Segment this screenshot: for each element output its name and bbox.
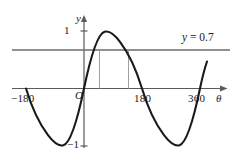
x-axis — [12, 85, 228, 91]
x-tick-label-360: 360 — [188, 93, 205, 104]
equation-variable: y — [182, 31, 187, 43]
x-tick-label-180: 180 — [134, 93, 151, 104]
origin-label: O — [75, 90, 83, 101]
sine-graph-figure: y 1 −1 O −180 180 360 θ y = 0.7 — [0, 0, 234, 164]
y-axis-arrowhead — [81, 15, 87, 22]
x-tick-label-minus-180: −180 — [11, 93, 35, 104]
equation-value: = 0.7 — [190, 31, 214, 43]
x-axis-label-theta: θ — [216, 93, 221, 104]
plot-canvas — [0, 0, 234, 164]
equation-label-y-equals-0-7: y = 0.7 — [182, 32, 214, 44]
x-axis-arrowhead — [220, 85, 228, 91]
y-tick-label-one: 1 — [64, 25, 70, 36]
y-axis-label: y — [76, 13, 81, 24]
y-tick-label-minus-one: −1 — [67, 139, 79, 150]
